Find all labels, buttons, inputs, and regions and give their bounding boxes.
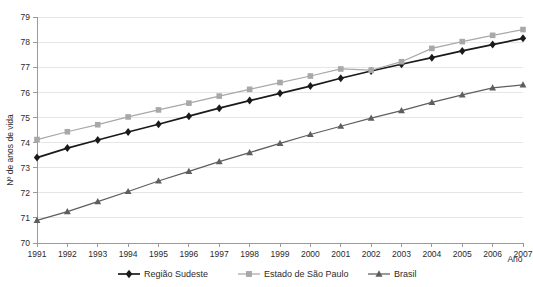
y-tick-label: 74 [21, 138, 31, 148]
data-series [34, 27, 526, 143]
data-point-marker [34, 154, 40, 162]
x-tick-label: 1995 [149, 249, 168, 259]
data-point-marker [64, 144, 70, 152]
y-tick-label: 73 [21, 163, 31, 173]
data-point-marker [95, 122, 101, 128]
square-marker-icon [246, 271, 252, 277]
legend-label: Região Sudeste [144, 269, 208, 279]
data-point-marker [216, 104, 222, 112]
y-axis: 70717273747576777879 [21, 12, 37, 248]
data-point-marker [399, 59, 405, 65]
data-point-marker [186, 100, 192, 106]
data-point-marker [429, 46, 435, 52]
x-tick-label: 2001 [331, 249, 350, 259]
data-point-marker [277, 80, 283, 86]
x-tick-label: 2006 [483, 249, 502, 259]
data-point-marker [155, 120, 161, 128]
data-point-marker [490, 33, 496, 39]
chart-canvas: 70717273747576777879 1991199219931994199… [0, 0, 533, 287]
y-axis-title: Nº de anos de vida [5, 114, 15, 186]
legend-label: Brasil [394, 269, 417, 279]
data-point-marker [34, 137, 40, 143]
x-tick-label: 1991 [28, 249, 47, 259]
data-point-marker [247, 87, 253, 93]
data-point-marker [307, 82, 313, 90]
data-point-marker [520, 27, 526, 33]
x-tick-label: 2000 [301, 249, 320, 259]
x-tick-label: 1999 [271, 249, 290, 259]
data-point-marker [65, 129, 71, 135]
chart-legend: Região SudesteEstado de São PauloBrasil [118, 269, 417, 279]
x-tick-label: 2005 [453, 249, 472, 259]
x-tick-label: 2004 [422, 249, 441, 259]
x-tick-label: 1996 [179, 249, 198, 259]
data-point-marker [125, 114, 131, 120]
data-point-marker [247, 97, 253, 105]
legend-item: Brasil [368, 269, 417, 279]
data-point-marker [308, 73, 314, 79]
x-tick-label: 1992 [58, 249, 77, 259]
data-point-marker [216, 93, 222, 99]
legend-label: Estado de São Paulo [264, 269, 349, 279]
legend-item: Região Sudeste [118, 269, 208, 279]
data-series-group [34, 27, 527, 223]
x-tick-label: 1997 [210, 249, 229, 259]
x-tick-label: 2003 [392, 249, 411, 259]
legend-item: Estado de São Paulo [238, 269, 349, 279]
x-axis: 1991199219931994199519961997199819992000… [28, 243, 533, 259]
data-point-marker [125, 128, 131, 136]
y-tick-label: 76 [21, 88, 31, 98]
data-point-marker [338, 66, 344, 72]
data-series [34, 81, 527, 223]
line-chart-figure: 70717273747576777879 1991199219931994199… [0, 0, 533, 287]
y-tick-label: 72 [21, 188, 31, 198]
data-point-marker [186, 112, 192, 120]
y-tick-label: 70 [21, 238, 31, 248]
x-tick-label: 1993 [88, 249, 107, 259]
diamond-marker-icon [126, 270, 133, 278]
series-line [37, 85, 523, 221]
y-tick-label: 75 [21, 113, 31, 123]
x-tick-label: 1994 [119, 249, 138, 259]
data-point-marker [429, 54, 435, 62]
x-axis-title: Ano [507, 254, 522, 264]
data-point-marker [459, 39, 465, 45]
data-point-marker [520, 34, 526, 42]
data-point-marker [368, 67, 374, 73]
y-tick-label: 79 [21, 12, 31, 22]
y-tick-label: 78 [21, 37, 31, 47]
data-point-marker [338, 74, 344, 82]
data-point-marker [459, 47, 465, 55]
data-point-marker [156, 107, 162, 113]
data-point-marker [277, 89, 283, 97]
x-tick-label: 1998 [240, 249, 259, 259]
gridlines [37, 17, 523, 218]
y-tick-label: 77 [21, 62, 31, 72]
y-tick-label: 71 [21, 213, 31, 223]
data-point-marker [520, 81, 527, 87]
x-tick-label: 2002 [362, 249, 381, 259]
